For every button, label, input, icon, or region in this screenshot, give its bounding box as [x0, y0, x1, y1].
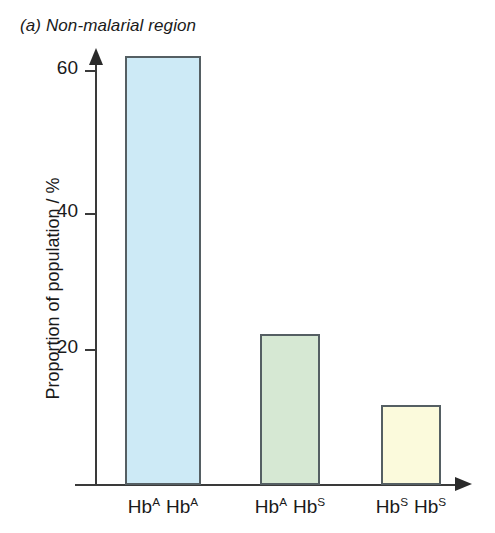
y-tick-mark [85, 70, 96, 72]
y-tick-mark [85, 349, 96, 351]
x-axis-arrow-icon [455, 477, 472, 491]
bar-chart-figure: (a) Non-malarial region Proportion of po… [0, 0, 495, 533]
y-tick-60: 60 [0, 70, 96, 72]
bar-hba-hbs [260, 334, 320, 485]
y-tick-20: 20 [0, 349, 96, 351]
y-tick-mark [85, 213, 96, 215]
y-tick-label: 60 [34, 57, 78, 79]
y-tick-40: 40 [0, 213, 96, 215]
x-tick-label-hbs-hbs: HbSHbS [331, 496, 491, 518]
y-tick-label: 20 [34, 336, 78, 358]
y-axis-arrow-icon [89, 48, 103, 65]
y-axis-line [95, 62, 97, 486]
bar-hba-hba [125, 56, 201, 485]
plot-area: 60 40 20 HbAHbA HbAHbS HbSHbS [0, 0, 495, 533]
y-tick-label: 40 [34, 200, 78, 222]
bar-hbs-hbs [381, 405, 441, 485]
